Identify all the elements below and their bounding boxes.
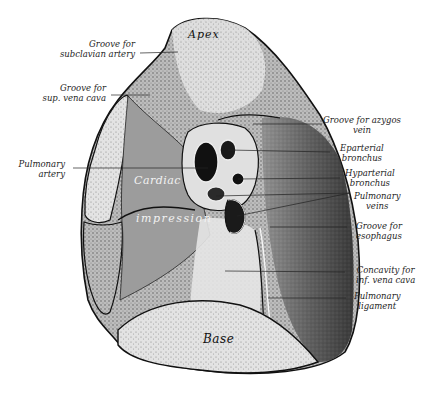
region-label-impression: impression: [136, 212, 212, 225]
label-groove-azygos-vein: Groove for azygos vein: [323, 116, 401, 135]
label-pulmonary-ligament: Pulmonary ligament: [354, 292, 401, 311]
region-label-apex: Apex: [188, 28, 220, 41]
label-groove-subclavian-artery: Groove for subclavian artery: [60, 40, 135, 59]
label-pulmonary-artery: Pulmonary artery: [19, 160, 66, 179]
region-label-cardiac: Cardiac: [134, 174, 181, 187]
pulmonary-artery-opening: [194, 142, 218, 182]
region-label-base: Base: [203, 332, 234, 346]
label-pulmonary-veins: Pulmonary veins: [354, 192, 401, 211]
label-concavity-inf-vena-cava: Concavity for inf. vena cava: [356, 266, 415, 285]
label-hyparterial-bronchus: Hyparterial bronchus: [345, 169, 395, 188]
label-eparterial-bronchus: Eparterial bronchus: [340, 144, 384, 163]
label-groove-esophagus: Groove for esophagus: [356, 222, 402, 241]
pulmonary-vein-upper: [207, 187, 225, 201]
label-groove-sup-vena-cava: Groove for sup. vena cava: [43, 84, 106, 103]
lung-diagram: Apex Cardiac impression Base Groove for …: [0, 0, 431, 403]
